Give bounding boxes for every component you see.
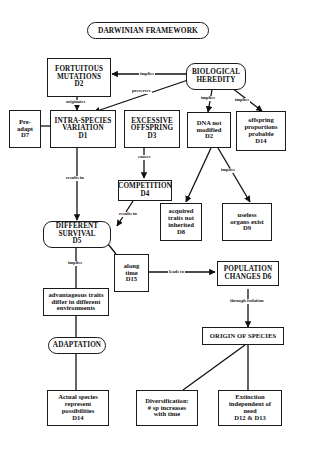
node-origin-of-species[interactable]: ORIGIN OF SPECIES (202, 327, 284, 345)
label-heredity-implies-mutations: implies (139, 72, 155, 77)
diagram-title: DARWINIAN FRAMEWORK (87, 22, 209, 39)
label-time-leads-to-population: leads to (168, 270, 185, 275)
node-dna-not-modified[interactable]: DNA not modified D2 (187, 112, 231, 148)
edge-survival-time (108, 244, 116, 254)
label-offspring-causes-competition: causes (137, 155, 152, 160)
edge-heredity-implies-dna (208, 90, 212, 112)
label-heredity-implies-dna: implies (200, 96, 216, 101)
node-adaptation[interactable]: ADAPTATION (48, 337, 106, 354)
node-acquired-traits[interactable]: acquired traits not inherited D8 (160, 203, 202, 241)
node-biological-heredity[interactable]: BIOLOGICAL HEREDITY (186, 63, 246, 90)
node-pre-adapt[interactable]: Pre- adapt D7 (9, 110, 41, 148)
label-population-through-isolation: through isolation (229, 299, 264, 304)
node-diversification[interactable]: Diversification: # sp increases with tim… (136, 390, 198, 426)
node-competition[interactable]: COMPETITION D4 (118, 180, 172, 201)
node-different-survival[interactable]: DIFFERENT SURVIVAL D5 (43, 221, 111, 248)
node-excessive-offspring[interactable]: EXCESSIVE OFFSPRING D3 (124, 110, 180, 148)
edge-dna-implies-organs (218, 148, 250, 202)
node-along-time[interactable]: along time D15 (114, 254, 149, 292)
node-useless-organs[interactable]: useless organs exist D9 (222, 203, 272, 241)
label-mutations-originates-variation: originates (65, 100, 86, 105)
label-survival-implies-traits: implies (67, 261, 83, 266)
label-dna-implies-organs: implies (220, 168, 236, 173)
edge-origin-diversification (183, 345, 245, 390)
node-intra-species-variation[interactable]: INTRA-SPECIES VARIATION D1 (50, 110, 116, 148)
label-variation-results-in-survival: results in (65, 176, 85, 181)
node-offspring-proportions[interactable]: offspring proportions probable D14 (236, 111, 286, 151)
node-advantageous-traits[interactable]: advantageous traits differ in different … (43, 288, 109, 316)
node-fortuitous-mutations[interactable]: FORTUITOUS MUTATIONS D2 (47, 58, 111, 97)
label-heredity-implies-offspring: implies (234, 98, 250, 103)
edge-dna-acquired (186, 148, 211, 202)
label-competition-results-in-survival: results in (118, 212, 138, 217)
node-extinction[interactable]: Extinction independent of need D12 & D13 (218, 390, 282, 426)
node-actual-species[interactable]: Actual species represent possibilities D… (47, 390, 109, 426)
label-heredity-preserves-variation: preserves (131, 89, 152, 94)
node-population-changes[interactable]: POPULATION CHANGES D6 (217, 261, 279, 286)
